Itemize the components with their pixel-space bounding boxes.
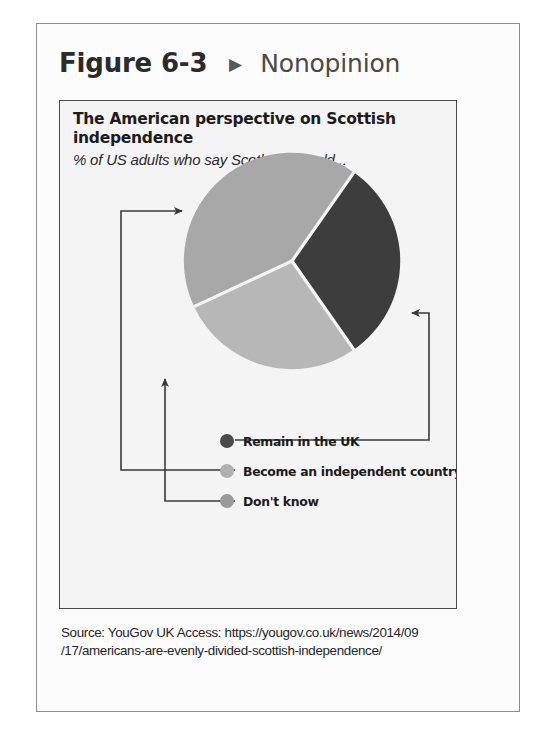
legend-item-become-an-independent-country[interactable]: Become an independent country: [220, 456, 456, 486]
legend-label: Don't know: [243, 494, 319, 509]
figure-label: Figure 6-3: [59, 48, 207, 78]
triangle-right-icon: ▶: [229, 56, 242, 73]
source-note: Source: YouGov UK Access: https://yougov…: [61, 624, 499, 660]
legend-label: Become an independent country: [243, 464, 457, 479]
figure-heading: Figure 6-3 ▶ Nonopinion: [59, 48, 400, 78]
legend-label: Remain in the UK: [243, 434, 359, 449]
legend-swatch-icon: [220, 434, 234, 448]
pie-chart: [60, 101, 457, 609]
legend-item-dont-know[interactable]: Don't know: [220, 486, 456, 516]
source-line-2: /17/americans-are-evenly-divided-scottis…: [61, 642, 499, 660]
legend-item-remain-in-the-uk[interactable]: Remain in the UK: [220, 426, 456, 456]
legend-swatch-icon: [220, 494, 234, 508]
chart-panel: The American perspective on Scottish ind…: [59, 100, 457, 609]
page-title: Nonopinion: [260, 49, 400, 78]
figure-page: Figure 6-3 ▶ Nonopinion The American per…: [0, 0, 556, 741]
chart-legend: Remain in the UK Become an independent c…: [220, 426, 456, 516]
source-line-1: Source: YouGov UK Access: https://yougov…: [61, 624, 499, 642]
legend-swatch-icon: [220, 464, 234, 478]
pie-chart-svg: [60, 101, 457, 609]
figure-frame: Figure 6-3 ▶ Nonopinion The American per…: [36, 23, 520, 712]
pie-slices: [184, 153, 400, 369]
